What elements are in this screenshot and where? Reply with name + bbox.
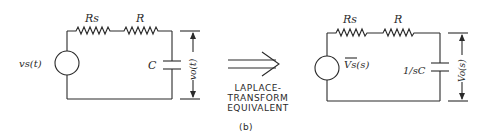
resistor-rs-label: Rs: [84, 12, 99, 25]
time-domain-circuit: Rs R vs(t) C vo(t): [19, 12, 200, 99]
resistor-r-icon: [380, 29, 440, 36]
figure-caption: (b): [239, 122, 253, 132]
resistor-r-label: R: [393, 13, 402, 26]
transform-label-line-2: TRANSFORM: [227, 93, 289, 103]
output-vo-t-label: vo(t): [188, 58, 198, 80]
resistor-r-label: R: [135, 12, 144, 25]
resistor-rs-icon: [327, 29, 380, 36]
voltage-source-icon: [55, 51, 79, 75]
laplace-transform-arrow: LAPLACE- TRANSFORM EQUIVALENT: [227, 52, 289, 113]
source-vs-t-label: vs(t): [19, 58, 42, 69]
transform-label-line-3: EQUIVALENT: [227, 103, 289, 113]
voltage-source-icon: [315, 56, 339, 80]
output-vo-s-label: Vo(s): [457, 59, 467, 82]
resistor-r-icon: [120, 27, 172, 34]
transform-label-line-1: LAPLACE-: [234, 83, 281, 93]
double-arrow-icon: [228, 52, 279, 76]
source-vs-s-label: Vs(s): [344, 59, 369, 70]
capacitor-1-over-sc-label: 1/sC: [403, 65, 426, 76]
resistor-rs-label: Rs: [342, 13, 357, 26]
laplace-circuit-figure: Rs R vs(t) C vo(t) LAPLACE- TRANSFORM EQ…: [0, 0, 489, 138]
capacitor-c-label: C: [148, 59, 157, 72]
resistor-rs-icon: [67, 27, 120, 34]
laplace-domain-circuit: Rs R Vs(s) 1/sC Vo(s): [315, 13, 468, 101]
